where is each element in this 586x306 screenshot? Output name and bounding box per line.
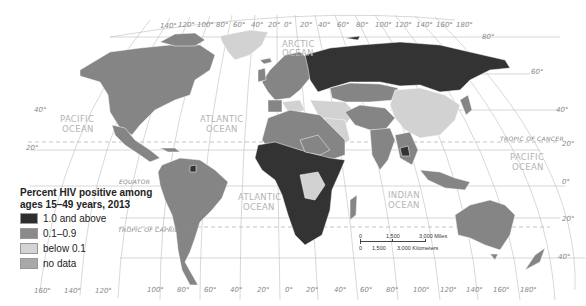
legend-swatch-dark: [20, 213, 38, 224]
scale-tick: [392, 239, 393, 242]
svg-text:80°: 80°: [216, 21, 228, 29]
svg-text:120°: 120°: [440, 286, 457, 294]
svg-text:20°: 20°: [268, 21, 280, 29]
svg-text:140°: 140°: [416, 21, 433, 29]
svg-text:OCEAN: OCEAN: [62, 124, 94, 134]
svg-text:40°: 40°: [558, 253, 570, 261]
svg-text:40°: 40°: [34, 106, 46, 114]
svg-text:100°: 100°: [375, 21, 392, 29]
svg-text:OCEAN: OCEAN: [282, 48, 314, 58]
svg-text:ATLANTIC: ATLANTIC: [238, 192, 282, 202]
legend-item-low: below 0.1: [20, 241, 170, 256]
svg-text:180°: 180°: [456, 21, 473, 29]
scale-tick: [360, 239, 361, 244]
svg-text:140°: 140°: [466, 286, 483, 294]
map-legend: Percent HIV positive among ages 15–49 ye…: [20, 187, 170, 271]
svg-text:160°: 160°: [34, 287, 51, 295]
scale-tick: [425, 239, 426, 242]
bottom-longitude-labels: 160° 140° 120° 100° 80° 60° 40° 20° 0° 2…: [34, 286, 537, 295]
svg-text:20°: 20°: [26, 144, 38, 152]
svg-text:80°: 80°: [356, 21, 368, 29]
legend-item-medium: 0.1–0.9: [20, 226, 170, 241]
svg-text:100°: 100°: [413, 286, 430, 294]
scale-km-3000: 3,000 Kilometers: [397, 245, 438, 251]
svg-text:0°: 0°: [562, 178, 570, 186]
svg-text:120°: 120°: [395, 21, 412, 29]
legend-label: below 0.1: [43, 243, 86, 254]
svg-text:80°: 80°: [482, 33, 494, 41]
svg-text:140°: 140°: [160, 22, 177, 30]
legend-swatch-nodata: [20, 258, 38, 269]
svg-text:20°: 20°: [306, 286, 318, 294]
svg-text:40°: 40°: [334, 286, 346, 294]
svg-text:60°: 60°: [233, 21, 245, 29]
svg-text:60°: 60°: [360, 286, 372, 294]
svg-text:20°: 20°: [300, 21, 312, 29]
scale-line: [360, 241, 426, 242]
legend-label: 1.0 and above: [43, 213, 106, 224]
svg-text:PACIFIC: PACIFIC: [510, 152, 544, 162]
svg-text:EQUATOR: EQUATOR: [119, 178, 150, 185]
svg-text:40°: 40°: [556, 106, 568, 114]
svg-text:INDIAN: INDIAN: [388, 190, 420, 200]
svg-text:PACIFIC: PACIFIC: [60, 114, 94, 124]
svg-text:40°: 40°: [230, 286, 242, 294]
legend-label: 0.1–0.9: [43, 228, 76, 239]
svg-text:80°: 80°: [177, 286, 189, 294]
svg-text:OCEAN: OCEAN: [388, 200, 420, 210]
svg-text:140°: 140°: [64, 287, 81, 295]
svg-text:40°: 40°: [318, 21, 330, 29]
legend-swatch-light: [20, 243, 38, 254]
svg-text:OCEAN: OCEAN: [512, 162, 544, 172]
scale-km-0: 0: [359, 245, 362, 251]
svg-text:120°: 120°: [95, 287, 112, 295]
svg-text:160°: 160°: [436, 21, 453, 29]
svg-text:100°: 100°: [197, 21, 214, 29]
scale-bar: 0 1,500 3,000 Miles 0 1,500 3,000 Kilome…: [359, 233, 459, 259]
svg-text:60°: 60°: [204, 286, 216, 294]
scale-km-1500: 1,500: [372, 245, 386, 251]
legend-title-line-1: Percent HIV positive among: [20, 187, 170, 199]
scale-miles-3000: 3,000 Miles: [419, 233, 447, 239]
svg-text:20°: 20°: [562, 215, 574, 223]
legend-item-nodata: no data: [20, 256, 170, 271]
svg-text:60°: 60°: [531, 68, 543, 76]
svg-text:0°: 0°: [285, 286, 293, 294]
svg-text:0°: 0°: [284, 21, 292, 29]
legend-label: no data: [43, 258, 76, 269]
svg-text:OCEAN: OCEAN: [243, 202, 275, 212]
svg-text:180°: 180°: [520, 286, 537, 294]
svg-text:40°: 40°: [251, 21, 263, 29]
svg-text:20°: 20°: [562, 140, 574, 148]
legend-item-high: 1.0 and above: [20, 211, 170, 226]
svg-text:100°: 100°: [147, 286, 164, 294]
svg-text:ATLANTIC: ATLANTIC: [200, 114, 244, 124]
svg-text:160°: 160°: [493, 286, 510, 294]
svg-text:80°: 80°: [386, 286, 398, 294]
svg-text:20°: 20°: [257, 286, 269, 294]
legend-title-line-2: ages 15–49 years, 2013: [20, 199, 170, 211]
svg-text:60°: 60°: [337, 21, 349, 29]
svg-text:OCEAN: OCEAN: [206, 124, 238, 134]
svg-text:120°: 120°: [178, 21, 195, 29]
svg-text:TROPIC OF CANCER: TROPIC OF CANCER: [500, 135, 564, 142]
oceania: [455, 200, 545, 270]
legend-swatch-medium: [20, 228, 38, 239]
